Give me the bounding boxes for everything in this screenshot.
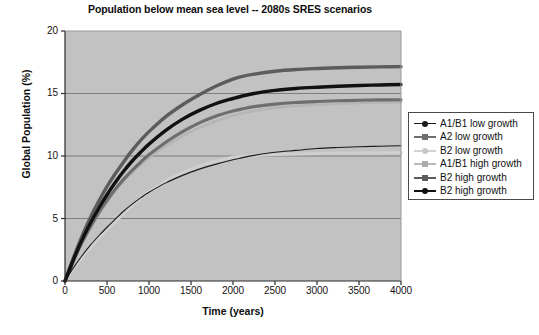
legend-item-4[interactable]: B2 high growth [409,171,533,185]
legend-marker-icon-5 [414,185,436,197]
chart-legend: A1/B1 low growth A2 low growth B2 low gr… [408,112,534,200]
legend-label-3: A1/B1 high growth [436,158,522,170]
legend-item-2[interactable]: B2 low growth [409,144,533,158]
legend-item-1[interactable]: A2 low growth [409,131,533,145]
legend-label-4: B2 high growth [436,172,507,184]
legend-marker-icon-4 [414,172,436,184]
legend-label-1: A2 low growth [436,131,503,143]
chart-figure: Population below mean sea level -- 2080s… [0,0,539,335]
legend-label-5: B2 high growth [436,185,507,197]
legend-marker-icon-2 [414,145,436,157]
legend-label-0: A1/B1 low growth [436,118,518,130]
legend-item-5[interactable]: B2 high growth [409,185,533,199]
legend-item-3[interactable]: A1/B1 high growth [409,158,533,172]
legend-marker-icon-1 [414,131,436,143]
legend-marker-icon-3 [414,158,436,170]
legend-label-2: B2 low growth [436,145,503,157]
legend-marker-icon-0 [414,118,436,130]
legend-item-0[interactable]: A1/B1 low growth [409,117,533,131]
